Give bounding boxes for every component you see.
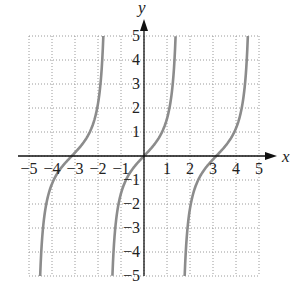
y-tick-label: 4	[132, 51, 140, 68]
y-axis-arrow-icon	[140, 19, 148, 31]
x-tick-label: −3	[66, 160, 83, 177]
x-tick-label: 4	[232, 160, 240, 177]
y-tick-label: 3	[132, 75, 140, 92]
y-tick-label: 1	[132, 123, 140, 140]
y-tick-label: 2	[132, 99, 140, 116]
y-axis-label: y	[136, 0, 146, 17]
x-axis-label: x	[281, 147, 290, 166]
y-tick-label: 5	[132, 27, 140, 44]
x-tick-label: −2	[89, 160, 106, 177]
y-tick-label: −3	[123, 219, 140, 236]
tangent-chart: −5−4−3−2−11234554321−1−2−3−4−5 x y	[0, 0, 295, 290]
y-tick-label: −2	[123, 195, 140, 212]
y-tick-label: −4	[123, 243, 140, 260]
x-tick-label: 2	[186, 160, 194, 177]
axes	[18, 19, 277, 276]
x-tick-label: 3	[209, 160, 217, 177]
x-tick-label: −5	[20, 160, 37, 177]
x-tick-label: −4	[43, 160, 60, 177]
y-tick-label: −5	[123, 267, 140, 284]
x-tick-label: 1	[163, 160, 171, 177]
x-tick-label: 5	[255, 160, 263, 177]
y-tick-label: −1	[123, 171, 140, 188]
x-axis-arrow-icon	[265, 152, 277, 160]
